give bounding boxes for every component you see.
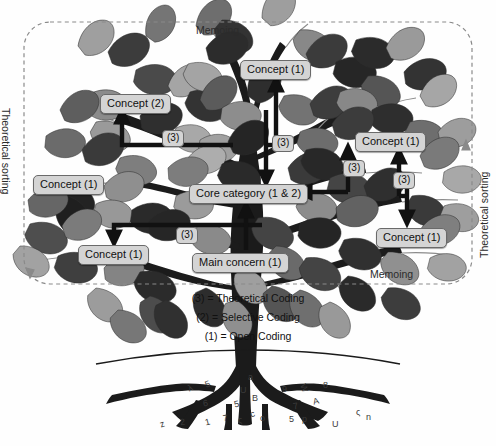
- legend-line-selective: (2) = Selective Coding: [0, 311, 496, 323]
- code-tag-center[interactable]: (3): [272, 135, 294, 152]
- boundary-arrow-down-left: [26, 268, 34, 278]
- root-character: U: [332, 419, 339, 429]
- code-tag-lower-left[interactable]: (3): [176, 227, 198, 244]
- theoretical-sorting-right-label: Theoretical sorting: [478, 172, 490, 258]
- root-character: B: [252, 393, 258, 403]
- node-concept-lower-left[interactable]: Concept (1): [78, 245, 149, 265]
- boundary-arrow-up-right: [462, 140, 470, 150]
- root-character: ς: [356, 407, 360, 417]
- root-character: p: [302, 414, 307, 424]
- root-character: n: [366, 412, 371, 422]
- node-main-concern[interactable]: Main concern (1): [192, 253, 289, 273]
- legend-line-theoretical: (3) = Theoretical Coding: [0, 292, 496, 304]
- memoing-top-label: Memoing: [196, 24, 239, 36]
- root-character: 9: [282, 384, 287, 394]
- root-character: ς: [238, 415, 242, 425]
- root-character: 5: [289, 414, 294, 424]
- figure-canvas: Memoing Memoing Theoretical sorting Theo…: [0, 0, 496, 446]
- node-concept-top[interactable]: Concept (1): [240, 60, 311, 80]
- code-tag-right-lower[interactable]: (3): [393, 172, 415, 189]
- node-concept-right[interactable]: Concept (1): [355, 132, 426, 152]
- code-tag-left[interactable]: (3): [162, 130, 184, 147]
- node-concept-2-left[interactable]: Concept (2): [100, 94, 171, 114]
- root-character: a: [248, 372, 253, 382]
- memoing-bottom-label: Memoing: [370, 268, 413, 280]
- root-character: U: [240, 385, 247, 395]
- node-concept-left[interactable]: Concept (1): [33, 175, 104, 195]
- legend-line-open: (1) = Open Coding: [0, 330, 496, 342]
- node-concept-lower-right[interactable]: Concept (1): [376, 228, 447, 248]
- theoretical-sorting-left-label: Theoretical sorting: [0, 108, 12, 194]
- code-tag-right-upper[interactable]: (3): [343, 160, 365, 177]
- node-core-category[interactable]: Core category (1 & 2): [189, 184, 308, 204]
- root-character: 8: [323, 380, 328, 390]
